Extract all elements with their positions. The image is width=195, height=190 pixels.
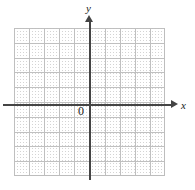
grid-edge-right (164, 28, 165, 176)
y-axis-label: y (86, 3, 91, 14)
y-axis-line (89, 20, 91, 180)
coordinate-grid-figure: x y 0 (0, 0, 195, 190)
x-axis-arrow-icon (171, 100, 178, 108)
x-axis-label: x (181, 100, 186, 111)
origin-label: 0 (78, 105, 84, 117)
y-axis-arrow-icon (85, 15, 93, 22)
x-axis-line (3, 104, 173, 106)
